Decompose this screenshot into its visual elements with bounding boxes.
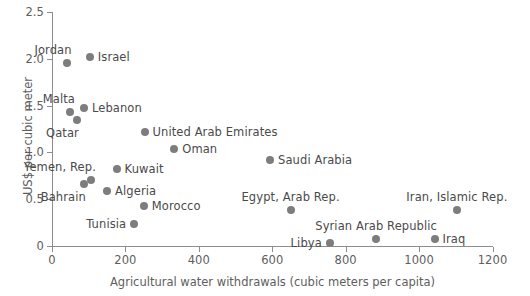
data-point-label: Bahrain (41, 190, 86, 204)
data-point[interactable] (80, 180, 88, 188)
data-point[interactable] (170, 145, 178, 153)
data-point[interactable] (63, 59, 71, 67)
x-tick-mark (346, 247, 347, 252)
y-axis-title: US$ per cubic meter (21, 56, 35, 216)
data-point-label: Libya (291, 236, 322, 250)
x-tick-label: 200 (114, 253, 136, 267)
data-point-label: Syrian Arab Republic (315, 219, 437, 233)
data-point-label: Algeria (115, 184, 156, 198)
data-point[interactable] (141, 128, 149, 136)
y-tick-mark (47, 246, 52, 247)
y-tick-mark (47, 12, 52, 13)
data-point[interactable] (86, 53, 94, 61)
data-point[interactable] (453, 206, 461, 214)
data-point-label: United Arab Emirates (153, 125, 278, 139)
x-tick-mark (272, 247, 273, 252)
data-point-label: Jordan (34, 43, 71, 57)
x-tick-mark (419, 247, 420, 252)
data-point-label: Iraq (443, 232, 466, 246)
data-point-label: Oman (182, 142, 217, 156)
data-point[interactable] (103, 187, 111, 195)
data-point[interactable] (372, 235, 380, 243)
x-tick-mark (199, 247, 200, 252)
data-point[interactable] (130, 220, 138, 228)
x-tick-mark (125, 247, 126, 252)
y-tick-mark (47, 59, 52, 60)
data-point-label: Tunisia (86, 217, 126, 231)
data-point[interactable] (113, 165, 121, 173)
data-point-label: Qatar (46, 126, 79, 140)
x-tick-label: 1200 (478, 253, 508, 267)
data-point-label: Saudi Arabia (278, 153, 352, 167)
x-axis-title: Agricultural water withdrawals (cubic me… (52, 275, 493, 289)
x-tick-label: 600 (261, 253, 283, 267)
y-tick-label: 2.5 (25, 5, 44, 19)
x-tick-label: 0 (48, 253, 55, 267)
data-point[interactable] (87, 176, 95, 184)
data-point[interactable] (431, 235, 439, 243)
data-point-label: Egypt, Arab Rep. (241, 190, 339, 204)
data-point[interactable] (66, 108, 74, 116)
data-point[interactable] (326, 239, 334, 247)
data-point[interactable] (266, 156, 274, 164)
data-point[interactable] (73, 116, 81, 124)
data-point-label: Lebanon (92, 101, 142, 115)
data-point-label: Malta (43, 92, 75, 106)
data-point[interactable] (80, 104, 88, 112)
x-tick-mark (52, 247, 53, 252)
x-tick-label: 400 (188, 253, 210, 267)
data-point-label: Israel (98, 50, 130, 64)
x-tick-label: 1000 (404, 253, 434, 267)
x-tick-mark (493, 247, 494, 252)
data-point[interactable] (140, 202, 148, 210)
y-tick-label: 0 (37, 239, 44, 253)
y-tick-mark (47, 152, 52, 153)
data-point-label: Morocco (152, 199, 201, 213)
scatter-chart: 020040060080010001200 00.51.01.52.02.5 J… (0, 0, 530, 296)
data-point[interactable] (287, 206, 295, 214)
data-point-label: Kuwait (125, 162, 164, 176)
x-tick-label: 800 (335, 253, 357, 267)
data-point-label: Iran, Islamic Rep. (406, 190, 507, 204)
